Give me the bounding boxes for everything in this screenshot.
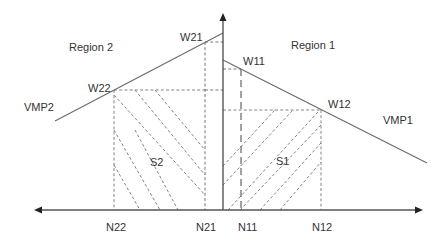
vmp1-line [223, 60, 427, 163]
up-arrow-icon [220, 13, 227, 21]
right-arrow-icon [415, 207, 423, 214]
two-region-vmp-diagram: Region 2 Region 1 VMP2 VMP1 W21 W22 W11 … [0, 0, 446, 244]
w11-label: W11 [243, 55, 265, 67]
n22-label: N22 [106, 221, 126, 233]
n12-label: N12 [312, 221, 332, 233]
w12-label: W12 [328, 98, 351, 110]
s2-label: S2 [150, 156, 163, 168]
area-s2-hatching [114, 90, 205, 210]
n11-label: N11 [238, 221, 257, 233]
region-1-label: Region 1 [291, 39, 335, 51]
area-s1-hatching [223, 110, 321, 210]
s1-label: S1 [276, 155, 289, 167]
region-2-label: Region 2 [69, 41, 113, 53]
w21-label: W21 [180, 31, 203, 43]
left-arrow-icon [34, 207, 42, 214]
n21-label: N21 [196, 221, 216, 233]
vmp1-label: VMP1 [383, 114, 413, 126]
w22-label: W22 [88, 82, 111, 94]
vmp2-label: VMP2 [24, 101, 54, 113]
